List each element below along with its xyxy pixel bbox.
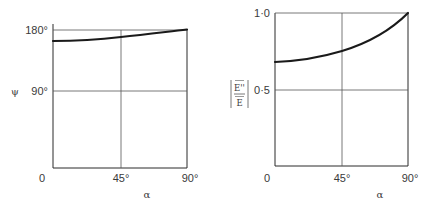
ytick-180: 180° (25, 24, 48, 36)
ytick-1-0: 1·0 (254, 7, 270, 19)
figure: 180° 90° 0 45° 90° ψ α 1·0 0·5 0 45° 90°… (0, 0, 427, 205)
xtick-0: 0 (39, 172, 45, 184)
ytick-90: 90° (31, 85, 48, 97)
x-axis-label-alpha: α (144, 189, 151, 200)
x-axis-label-alpha-right: α (377, 189, 384, 200)
xtick-45-right: 45° (334, 172, 351, 184)
ylabel-numerator: E'' (234, 83, 245, 93)
xtick-90: 90° (182, 172, 199, 184)
field-ratio-chart: 1·0 0·5 0 45° 90° E'' E α (231, 7, 418, 200)
xtick-90-right: 90° (402, 172, 419, 184)
xtick-45: 45° (113, 172, 130, 184)
ytick-0-5: 0·5 (254, 84, 270, 96)
ratio-curve (275, 13, 408, 62)
xtick-0-right: 0 (264, 172, 270, 184)
y-axis-label-field-ratio: E'' E (231, 80, 248, 108)
psi-chart: 180° 90° 0 45° 90° ψ α (11, 24, 198, 200)
y-axis-label-psi: ψ (11, 86, 19, 97)
ylabel-denominator: E (236, 98, 242, 108)
psi-curve (53, 30, 187, 42)
